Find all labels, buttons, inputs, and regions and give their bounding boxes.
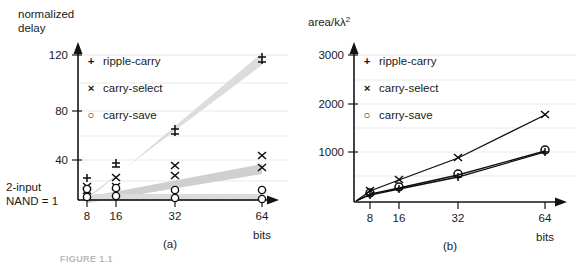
panel-a-x-tick-16: 16 bbox=[110, 210, 123, 222]
panel-b-legend-label-carry-select: carry-select bbox=[379, 82, 439, 94]
panel-a-y-ticks bbox=[72, 55, 82, 160]
panel-a-y-axis-arrow bbox=[74, 42, 83, 54]
panel-b-xlabel: bits bbox=[536, 231, 554, 243]
panel-b-x-tick-32: 32 bbox=[452, 212, 465, 224]
panel-b-legend: + ripple-carry × carry-select ○ carry-sa… bbox=[364, 55, 440, 121]
panel-b-legend-circle-marker-icon: ○ bbox=[364, 109, 371, 121]
panel-a-y-tick-120: 120 bbox=[49, 49, 68, 61]
panel-a-legend-label-carry-select: carry-select bbox=[103, 82, 163, 94]
panel-a-y-tick-40: 40 bbox=[55, 154, 68, 166]
panel-b-legend-cross-marker-icon: × bbox=[364, 82, 371, 94]
figure-root: normalized delay bbox=[0, 0, 578, 268]
panel-b-ylabel: area/kλ2 bbox=[308, 15, 351, 28]
panel-b-caption: (b) bbox=[443, 240, 457, 252]
panel-a-x-tick-32: 32 bbox=[169, 210, 182, 222]
panel-a-baseline-label-line1: 2-input bbox=[6, 181, 42, 193]
figure-caption: FIGURE 1.1 bbox=[60, 254, 113, 264]
panel-a-legend-circle-marker-icon: ○ bbox=[88, 109, 95, 121]
panel-b-legend-label-carry-save: carry-save bbox=[379, 109, 433, 121]
panel-b-ylabel-superscript: 2 bbox=[346, 15, 351, 24]
panel-b-y-tick-2000: 2000 bbox=[318, 98, 344, 110]
panel-a-xlabel: bits bbox=[253, 229, 271, 241]
panel-a-y-tick-80: 80 bbox=[55, 105, 68, 117]
panel-a-legend-cross-marker-icon: × bbox=[88, 82, 95, 94]
panel-b-x-tick-64: 64 bbox=[539, 212, 552, 224]
panel-a-x-tick-8: 8 bbox=[84, 210, 90, 222]
panel-a-caption: (a) bbox=[163, 238, 177, 250]
panel-b-markers-ripple-carry bbox=[366, 148, 549, 199]
panel-b-x-ticks bbox=[370, 202, 545, 209]
panel-b-y-axis-arrow bbox=[350, 42, 359, 54]
panel-a-legend-label-ripple-carry: ripple-carry bbox=[103, 55, 161, 67]
panel-a-legend-label-carry-save: carry-save bbox=[103, 109, 157, 121]
panel-b-y-tick-3000: 3000 bbox=[318, 49, 344, 61]
panel-b-x-axis-arrow bbox=[555, 198, 567, 207]
panel-b-legend-label-ripple-carry: ripple-carry bbox=[379, 55, 437, 67]
chart-panel-a: normalized delay bbox=[0, 0, 290, 268]
panel-b-x-tick-16: 16 bbox=[393, 212, 406, 224]
panel-b-y-ticks bbox=[348, 55, 358, 152]
panel-b-ylabel-base: area/kλ bbox=[308, 16, 346, 28]
panel-a-legend-plus-marker-icon: + bbox=[88, 55, 95, 67]
panel-a-x-axis-arrow bbox=[267, 196, 279, 205]
panel-b-legend-plus-marker-icon: + bbox=[364, 55, 371, 67]
panel-a-ylabel-line2: delay bbox=[18, 22, 46, 34]
panel-b-x-tick-8: 8 bbox=[367, 212, 373, 224]
panel-a-baseline-label-line2: NAND = 1 bbox=[6, 195, 58, 207]
panel-a-ylabel-line1: normalized bbox=[18, 8, 74, 20]
chart-panel-b: area/kλ2 3000 2000 1000 bbox=[290, 0, 578, 268]
panel-a-x-tick-64: 64 bbox=[256, 210, 269, 222]
panel-b-y-tick-1000: 1000 bbox=[318, 146, 344, 158]
